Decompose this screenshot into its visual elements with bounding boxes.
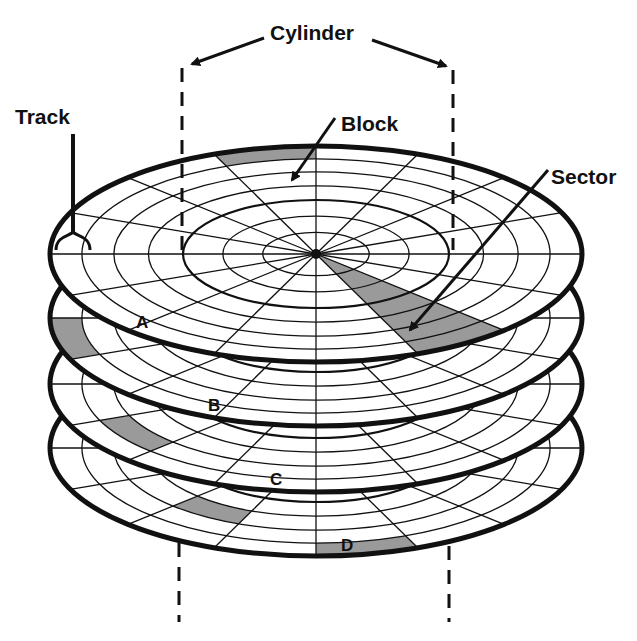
cylinder-arrow-right [372,40,446,66]
disk-geometry-diagram: Cylinder Track Block Sector A B C D [0,0,637,641]
block-label: Block [341,112,398,136]
cylinder-label: Cylinder [270,21,354,45]
block-c-label: C [270,470,282,490]
cylinder-arrow-left [192,38,264,64]
sector-label: Sector [551,165,616,189]
platter-stack-drawing [0,0,637,641]
block-a-label: A [136,313,148,333]
platter-1 [50,146,582,362]
block-b-label: B [208,396,220,416]
track-label: Track [15,105,70,129]
block-d-label: D [341,536,353,556]
